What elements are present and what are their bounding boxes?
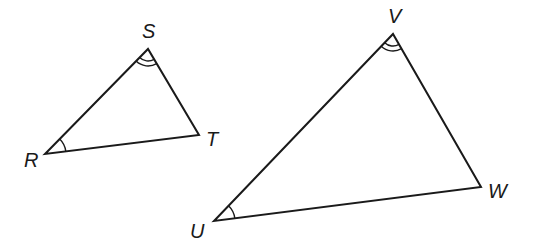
- triangle-rst-outline: [45, 49, 199, 154]
- angle-mark-s-inner: [140, 58, 155, 61]
- triangle-uvw: [214, 34, 481, 221]
- similar-triangles-diagram: S R T V W U: [0, 0, 533, 249]
- angle-mark-u: [229, 206, 235, 219]
- vertex-label-w: W: [488, 180, 509, 202]
- triangle-rst: [45, 49, 199, 154]
- vertex-label-t: T: [206, 128, 220, 150]
- angle-mark-s-outer: [136, 61, 157, 66]
- angle-mark-v-inner: [385, 43, 399, 46]
- vertex-label-u: U: [190, 220, 205, 242]
- angle-mark-r: [60, 139, 66, 151]
- angle-mark-v-outer: [381, 46, 401, 51]
- vertex-label-r: R: [24, 149, 38, 171]
- vertex-label-v: V: [388, 5, 403, 27]
- triangle-uvw-outline: [214, 34, 481, 221]
- vertex-label-s: S: [142, 20, 156, 42]
